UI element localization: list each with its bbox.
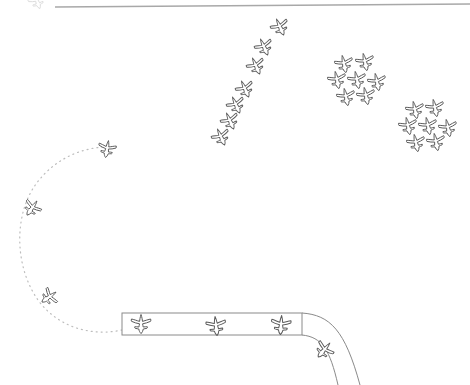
aircraft-icon — [252, 35, 276, 58]
aircraft-icon — [424, 98, 445, 119]
aircraft-icon — [244, 54, 268, 77]
aircraft-icon — [437, 118, 458, 139]
aircraft-icon — [233, 77, 257, 100]
dotted-approach-path — [20, 147, 122, 332]
aircraft-icon — [326, 70, 347, 91]
aircraft-icon — [405, 133, 426, 154]
aircraft-icon — [366, 72, 387, 93]
taxiway-outer-edge — [302, 313, 360, 385]
cluster-b-group — [397, 98, 458, 154]
approach-queue-group — [20, 139, 117, 309]
aircraft-icon — [26, 0, 47, 12]
aircraft-icon — [397, 116, 418, 137]
aircraft-icon — [404, 100, 425, 121]
diagonal-stream-group — [209, 15, 292, 148]
aircraft-icon — [425, 132, 446, 153]
taxiway-aircraft-group — [311, 337, 337, 363]
aircraft-icon — [335, 87, 356, 108]
aircraft-icon — [97, 139, 117, 159]
aircraft-icon — [354, 52, 375, 73]
aircraft-icon — [37, 285, 61, 309]
cluster-a-group — [326, 52, 387, 108]
top-edge-partial-group — [26, 0, 47, 12]
aircraft-icon — [417, 116, 438, 137]
aircraft-icon — [333, 54, 354, 75]
aircraft-icon — [268, 15, 292, 38]
aircraft-icon — [20, 196, 44, 220]
aircraft-icon — [209, 125, 233, 148]
top border line-line — [55, 4, 470, 7]
airport-sketch-canvas: Airport traffic sketch — [0, 0, 470, 385]
aircraft-icon — [311, 337, 337, 363]
sketch-surface — [0, 0, 470, 385]
